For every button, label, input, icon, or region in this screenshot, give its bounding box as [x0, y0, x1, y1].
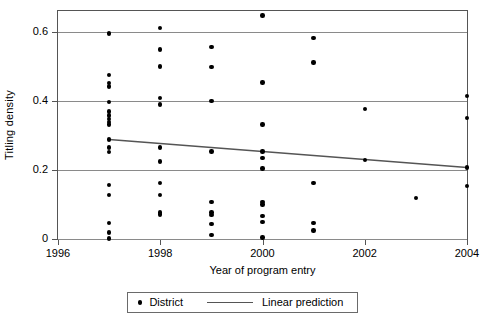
y-axis-title: Titling density	[0, 0, 18, 250]
data-point	[209, 65, 213, 69]
data-point	[311, 228, 315, 232]
data-point	[209, 233, 213, 237]
legend-label-linear-prediction: Linear prediction	[262, 297, 343, 308]
x-tick-label-1: 1998	[137, 247, 183, 259]
x-tick-3	[365, 240, 366, 245]
data-point	[107, 137, 111, 141]
y-tick-label-0: 0	[14, 233, 48, 244]
data-point	[107, 230, 111, 234]
legend-item-district: District	[138, 293, 183, 312]
data-point	[209, 222, 213, 226]
legend-dot-icon	[138, 300, 142, 304]
scatter-plot-figure: Titling density Year of program entry Di…	[0, 0, 483, 323]
y-tick-label-2: 0.4	[14, 95, 48, 106]
data-point	[260, 166, 264, 170]
data-point	[465, 165, 469, 169]
legend-line-icon	[207, 302, 253, 304]
x-axis-title: Year of program entry	[57, 264, 468, 276]
data-point	[363, 107, 367, 111]
data-point	[260, 13, 264, 17]
legend-item-linear-prediction: Linear prediction	[207, 293, 343, 312]
chart-legend: District Linear prediction	[127, 292, 358, 313]
x-tick-label-0: 1996	[35, 247, 81, 259]
data-point	[363, 158, 367, 162]
x-tick-0	[58, 240, 59, 245]
data-point	[260, 156, 264, 160]
x-tick-label-2: 2000	[240, 247, 286, 259]
y-tick-label-1: 0.2	[14, 164, 48, 175]
data-point	[311, 60, 315, 64]
legend-label-district: District	[149, 297, 183, 308]
data-point	[465, 184, 469, 188]
y-tick-1	[52, 170, 57, 171]
data-point	[465, 116, 469, 120]
data-point	[260, 80, 264, 84]
y-tick-label-3: 0.6	[14, 26, 48, 37]
gridline-y-3	[58, 32, 467, 33]
data-point	[107, 236, 111, 240]
data-point	[260, 202, 264, 206]
data-point	[209, 149, 213, 153]
data-point	[209, 45, 213, 49]
x-tick-1	[160, 240, 161, 245]
data-point	[107, 84, 111, 88]
data-point	[209, 99, 213, 103]
x-tick-2	[263, 240, 264, 245]
data-point	[260, 214, 264, 218]
data-point	[311, 181, 315, 185]
data-point	[158, 47, 162, 51]
data-point	[260, 122, 264, 126]
y-tick-0	[52, 239, 57, 240]
x-tick-label-3: 2002	[342, 247, 388, 259]
plot-frame	[57, 10, 468, 240]
y-tick-2	[52, 101, 57, 102]
gridline-y-2	[58, 101, 467, 102]
data-point	[414, 196, 418, 200]
data-point	[209, 213, 213, 217]
data-point	[107, 31, 111, 35]
y-tick-3	[52, 32, 57, 33]
plot-area	[58, 11, 467, 239]
data-point	[107, 145, 111, 149]
data-point	[260, 149, 264, 153]
data-point	[465, 94, 469, 98]
x-tick-label-4: 2004	[444, 247, 483, 259]
x-tick-4	[467, 240, 468, 245]
data-point	[209, 200, 213, 204]
data-point	[311, 221, 315, 225]
data-point	[260, 220, 264, 224]
